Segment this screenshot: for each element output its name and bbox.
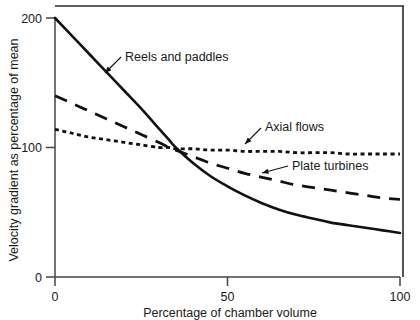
series-label-reels-and-paddles: Reels and paddles (125, 50, 229, 64)
x-tick-label-0: 0 (52, 290, 59, 304)
series-label-plate-turbines: Plate turbines (292, 159, 368, 173)
series-axial-flows (55, 129, 400, 154)
y-axis-title: Velocity gradient as percentage of mean (7, 38, 21, 261)
x-axis-title: Percentage of chamber volume (143, 306, 317, 320)
x-axis-ticks (55, 277, 400, 286)
chart-canvas: 200 100 0 0 50 100 Percentage of chamber… (0, 0, 420, 320)
chart-figure: 200 100 0 0 50 100 Percentage of chamber… (0, 0, 420, 320)
series-label-axial-flows: Axial flows (265, 120, 324, 134)
x-tick-label-100: 100 (390, 290, 411, 304)
y-tick-label-200: 200 (21, 12, 42, 26)
leader-arrowhead (262, 169, 269, 174)
annotation-leaders (105, 57, 288, 174)
series-plate-turbines (55, 96, 400, 200)
figure-frame (55, 6, 404, 277)
y-axis-ticks (46, 18, 55, 277)
y-tick-label-0: 0 (35, 271, 42, 285)
x-tick-label-50: 50 (221, 290, 235, 304)
y-tick-label-100: 100 (21, 141, 42, 155)
